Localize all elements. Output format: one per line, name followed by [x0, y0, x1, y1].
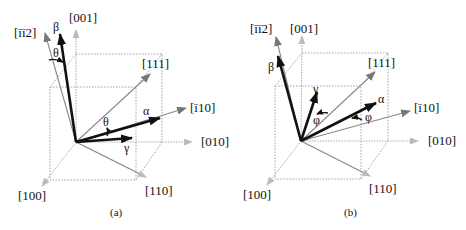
- label-theta-top-a: θ: [53, 46, 59, 60]
- axis-110-a: [76, 142, 146, 177]
- axis-110-b: [301, 141, 370, 176]
- label-phi-left-b: φ: [313, 113, 320, 127]
- label-110-b: [110]: [369, 181, 397, 196]
- axis-001-b: [301, 36, 302, 141]
- label-m1m12-a: [īī2]: [14, 25, 36, 40]
- label-gamma-a: γ: [123, 141, 130, 155]
- vector-beta-a: [60, 34, 76, 142]
- axis-100-b: [267, 141, 301, 185]
- caption-b: (b): [344, 206, 357, 219]
- label-alpha-b: α: [378, 92, 385, 106]
- label-010-a: [010]: [201, 134, 229, 149]
- panel-a: [īī2] β [001] θ [111] α [ī10] θ γ [010] …: [14, 10, 229, 219]
- label-001-a: [001]: [69, 10, 97, 25]
- axis-100-a: [42, 142, 76, 186]
- label-100-a: [100]: [18, 188, 46, 203]
- label-111-b: [111]: [368, 55, 395, 70]
- label-m1m12-b: [īī2]: [250, 21, 272, 36]
- label-010-b: [010]: [428, 133, 456, 148]
- label-110-a: [110]: [145, 183, 173, 198]
- panel-b: [īī2] [001] β [111] γ α [ī10] φ φ [010] …: [243, 21, 456, 219]
- label-m110-a: [ī10]: [190, 100, 215, 115]
- crystal-orientation-diagram: [īī2] β [001] θ [111] α [ī10] θ γ [010] …: [0, 0, 466, 230]
- caption-a: (a): [110, 206, 123, 219]
- label-gamma-b: γ: [312, 82, 319, 96]
- label-100-b: [100]: [243, 187, 271, 202]
- label-001-b: [001]: [290, 21, 318, 36]
- angle-arc-phi-right-b: [352, 118, 362, 120]
- label-theta-bottom-a: θ: [103, 115, 109, 129]
- vector-beta-b: [278, 56, 301, 141]
- label-beta-b: β: [268, 60, 274, 74]
- label-111-a: [111]: [142, 56, 169, 71]
- label-beta-a: β: [53, 20, 59, 34]
- label-phi-right-b: φ: [365, 110, 372, 124]
- label-m110-b: [ī10]: [414, 100, 439, 115]
- label-alpha-a: α: [143, 104, 150, 118]
